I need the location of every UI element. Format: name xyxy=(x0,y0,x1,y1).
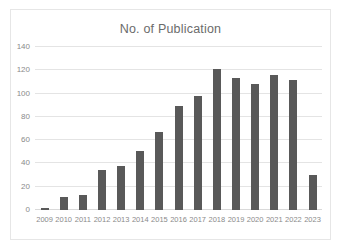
bar-slot: 2009 xyxy=(35,47,54,210)
bar[interactable] xyxy=(270,75,278,210)
x-axis-tick-label: 2010 xyxy=(55,215,72,224)
bar[interactable] xyxy=(79,195,87,210)
bar-slot: 2018 xyxy=(207,47,226,210)
bar[interactable] xyxy=(98,170,106,210)
x-axis-tick-label: 2009 xyxy=(36,215,53,224)
bar[interactable] xyxy=(155,132,163,210)
bar-slot: 2020 xyxy=(246,47,265,210)
bar[interactable] xyxy=(41,208,49,210)
bar-slot: 2021 xyxy=(265,47,284,210)
bar[interactable] xyxy=(60,197,68,210)
x-axis-tick-label: 2011 xyxy=(75,215,91,224)
bar-slot: 2017 xyxy=(188,47,207,210)
bar[interactable] xyxy=(117,166,125,210)
plot-area: 020406080100120140 200920102011201220132… xyxy=(35,47,322,210)
y-axis-tick-label: 60 xyxy=(21,135,30,144)
x-axis-tick-label: 2021 xyxy=(266,215,283,224)
y-axis-tick-label: 80 xyxy=(21,111,30,120)
y-axis-tick-label: 140 xyxy=(17,42,30,51)
bar-slot: 2016 xyxy=(169,47,188,210)
y-axis-tick-label: 120 xyxy=(17,65,30,74)
x-axis-tick-label: 2023 xyxy=(304,215,321,224)
x-axis-tick-label: 2014 xyxy=(132,215,149,224)
y-axis-tick-label: 100 xyxy=(17,88,30,97)
bar[interactable] xyxy=(251,84,259,210)
x-axis-tick-label: 2018 xyxy=(208,215,225,224)
x-axis-tick-label: 2022 xyxy=(285,215,302,224)
bar-series: 2009201020112012201320142015201620172018… xyxy=(35,47,322,210)
bar-slot: 2010 xyxy=(54,47,73,210)
bar-slot: 2012 xyxy=(92,47,111,210)
x-axis-tick-label: 2019 xyxy=(228,215,245,224)
bar-slot: 2011 xyxy=(73,47,92,210)
bar[interactable] xyxy=(232,78,240,210)
chart-title: No. of Publication xyxy=(11,22,330,36)
bar[interactable] xyxy=(213,69,221,210)
y-axis-tick-label: 40 xyxy=(21,158,30,167)
bar[interactable] xyxy=(136,151,144,210)
bar-slot: 2015 xyxy=(150,47,169,210)
x-axis-tick-label: 2013 xyxy=(113,215,130,224)
bar[interactable] xyxy=(289,80,297,210)
bar-slot: 2019 xyxy=(226,47,245,210)
y-axis-tick-label: 0 xyxy=(26,205,30,214)
chart-card: No. of Publication 020406080100120140 20… xyxy=(10,9,331,240)
x-axis-tick-label: 2017 xyxy=(189,215,206,224)
bar-slot: 2013 xyxy=(112,47,131,210)
y-axis-tick-label: 20 xyxy=(21,181,30,190)
x-axis-tick-label: 2020 xyxy=(247,215,264,224)
x-axis-tick-label: 2016 xyxy=(170,215,187,224)
bar[interactable] xyxy=(175,106,183,210)
x-axis-tick-label: 2015 xyxy=(151,215,168,224)
bar[interactable] xyxy=(194,96,202,210)
bar-slot: 2023 xyxy=(303,47,322,210)
x-axis-tick-label: 2012 xyxy=(94,215,111,224)
bar-slot: 2022 xyxy=(284,47,303,210)
bar[interactable] xyxy=(309,175,317,210)
bar-slot: 2014 xyxy=(131,47,150,210)
